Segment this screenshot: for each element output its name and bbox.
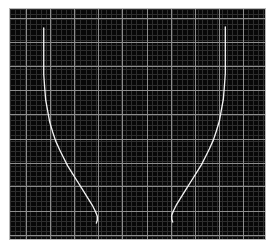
plot-canvas xyxy=(10,9,265,239)
screenshot-root xyxy=(0,0,270,246)
trace-right-curve xyxy=(172,27,226,222)
trace-left-curve xyxy=(44,28,98,223)
trace-layer xyxy=(10,9,265,239)
plot-frame xyxy=(9,8,266,240)
